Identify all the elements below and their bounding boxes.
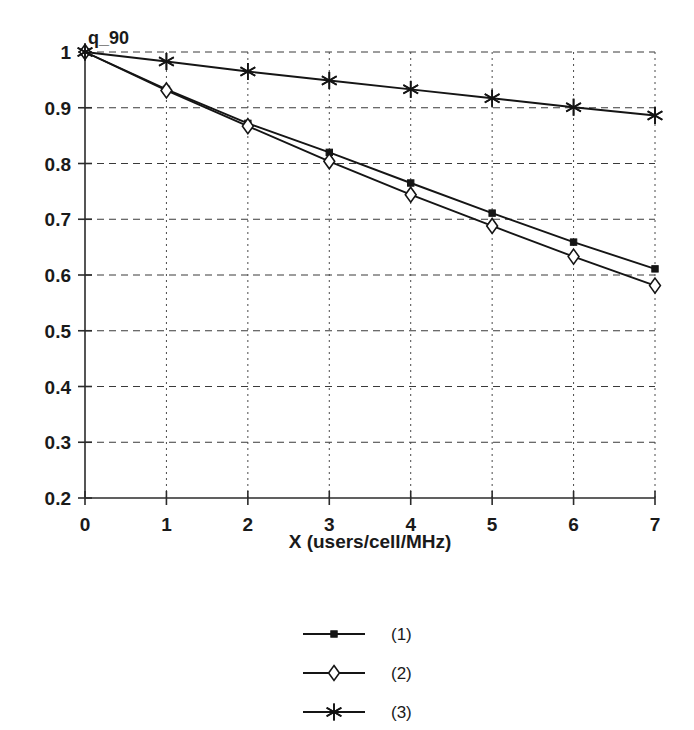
y-tick-label: 1 (60, 42, 71, 63)
legend-label: (2) (391, 664, 412, 683)
y-tick-label: 0.7 (45, 209, 71, 230)
x-tick-label: 1 (161, 514, 172, 535)
y-tick-label: 0.4 (45, 377, 72, 398)
marker-filled-square (652, 266, 658, 272)
x-tick-label: 0 (80, 514, 91, 535)
chart-figure: 0.20.30.40.50.60.70.80.91 01234567 q_90 … (0, 0, 694, 730)
marker-filled-square (489, 210, 495, 216)
x-tick-label: 5 (487, 514, 498, 535)
x-tick-label: 7 (650, 514, 661, 535)
x-axis-label: X (users/cell/MHz) (289, 531, 452, 552)
y-axis-tick-labels: 0.20.30.40.50.60.70.80.91 (45, 42, 72, 509)
y-tick-label: 0.6 (45, 265, 71, 286)
x-tick-label: 6 (568, 514, 579, 535)
y-tick-label: 0.3 (45, 432, 71, 453)
line-chart: 0.20.30.40.50.60.70.80.91 01234567 q_90 … (0, 0, 694, 730)
marker-filled-square (331, 631, 337, 637)
y-tick-label: 0.8 (45, 154, 71, 175)
y-axis-label: q_90 (88, 28, 129, 48)
marker-filled-square (570, 239, 576, 245)
y-tick-label: 0.9 (45, 98, 71, 119)
y-tick-label: 0.5 (45, 321, 72, 342)
y-tick-label: 0.2 (45, 488, 71, 509)
legend-label: (1) (391, 625, 412, 644)
legend-label: (3) (391, 703, 412, 722)
x-tick-label: 2 (243, 514, 254, 535)
marker-filled-square (408, 180, 414, 186)
